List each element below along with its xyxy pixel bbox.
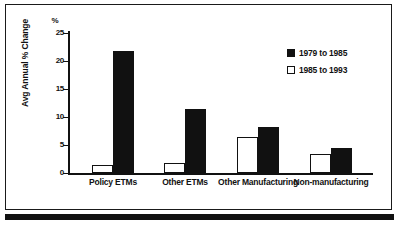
legend-label: 1979 to 1985 <box>299 48 347 58</box>
chart-figure: % Avg Annual % Change 2520151050 Policy … <box>0 0 404 228</box>
y-tick-label: 10 <box>0 112 71 121</box>
y-tick-label: 15 <box>0 84 71 93</box>
bar-series1 <box>331 148 352 173</box>
y-tick-label: 5 <box>0 140 71 149</box>
bar-series1 <box>185 109 206 173</box>
y-axis-line <box>68 31 70 175</box>
legend-swatch-filled-icon <box>287 49 295 57</box>
bar-series1 <box>258 127 279 173</box>
legend-swatch-open-icon <box>287 66 295 74</box>
y-tick-label: 0 <box>0 168 71 177</box>
legend-item: 1985 to 1993 <box>287 61 347 78</box>
bar-series0 <box>310 154 331 173</box>
bar-series1 <box>113 51 134 173</box>
y-tick-label: 20 <box>0 56 71 65</box>
bar-series0 <box>237 137 258 173</box>
x-axis-label: Non-manufacturing <box>271 177 391 187</box>
bar-series0 <box>92 165 113 173</box>
bar-series0 <box>164 163 185 173</box>
y-tick-label: 25 <box>0 28 71 37</box>
bottom-rule <box>5 214 394 220</box>
x-axis-line <box>68 173 373 175</box>
legend-item: 1979 to 1985 <box>287 44 347 61</box>
chart-legend: 1979 to 19851985 to 1993 <box>287 44 347 78</box>
legend-label: 1985 to 1993 <box>299 65 347 75</box>
y-axis-unit-label: % <box>44 16 66 25</box>
